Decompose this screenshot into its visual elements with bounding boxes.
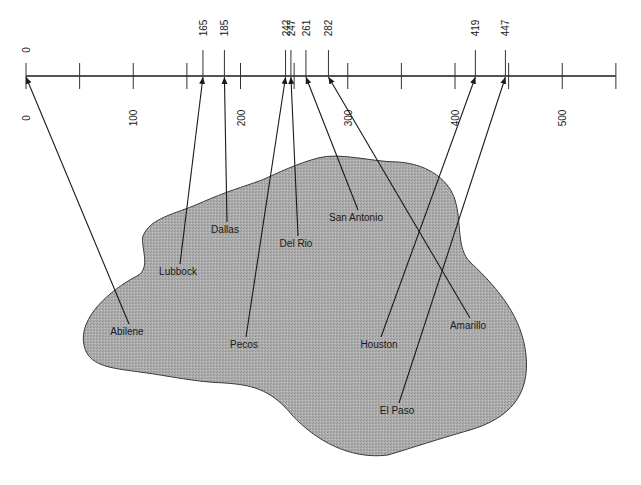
marker-label: 165 [198, 19, 209, 36]
city-label: Lubbock [159, 266, 198, 277]
origin-label: 0 [21, 47, 32, 53]
city-label: Dallas [211, 224, 239, 235]
city-label: Houston [360, 339, 397, 350]
axis-tick-label: 100 [128, 109, 139, 126]
axis-tick-label: 400 [450, 109, 461, 126]
region-blob [83, 156, 526, 456]
city-label: Amarillo [450, 320, 487, 331]
city-label: El Paso [380, 405, 415, 416]
hash-map-diagram: 0100200300400500016518524224726128241944… [0, 0, 641, 485]
marker-label: 261 [301, 19, 312, 36]
axis-tick-label: 500 [557, 109, 568, 126]
marker-label: 447 [500, 19, 511, 36]
axis-tick-label: 200 [236, 109, 247, 126]
marker-label: 419 [470, 19, 481, 36]
marker-label: 282 [323, 19, 334, 36]
axis-tick-label: 0 [21, 115, 32, 121]
diagram-canvas: 0100200300400500016518524224726128241944… [0, 0, 641, 485]
city-label: San Antonio [329, 212, 383, 223]
city-label: Abilene [110, 326, 144, 337]
hash-arrow [26, 77, 129, 324]
city-label: Pecos [230, 339, 258, 350]
city-label: Del Rio [280, 238, 313, 249]
marker-label: 247 [286, 19, 297, 36]
marker-label: 185 [219, 19, 230, 36]
